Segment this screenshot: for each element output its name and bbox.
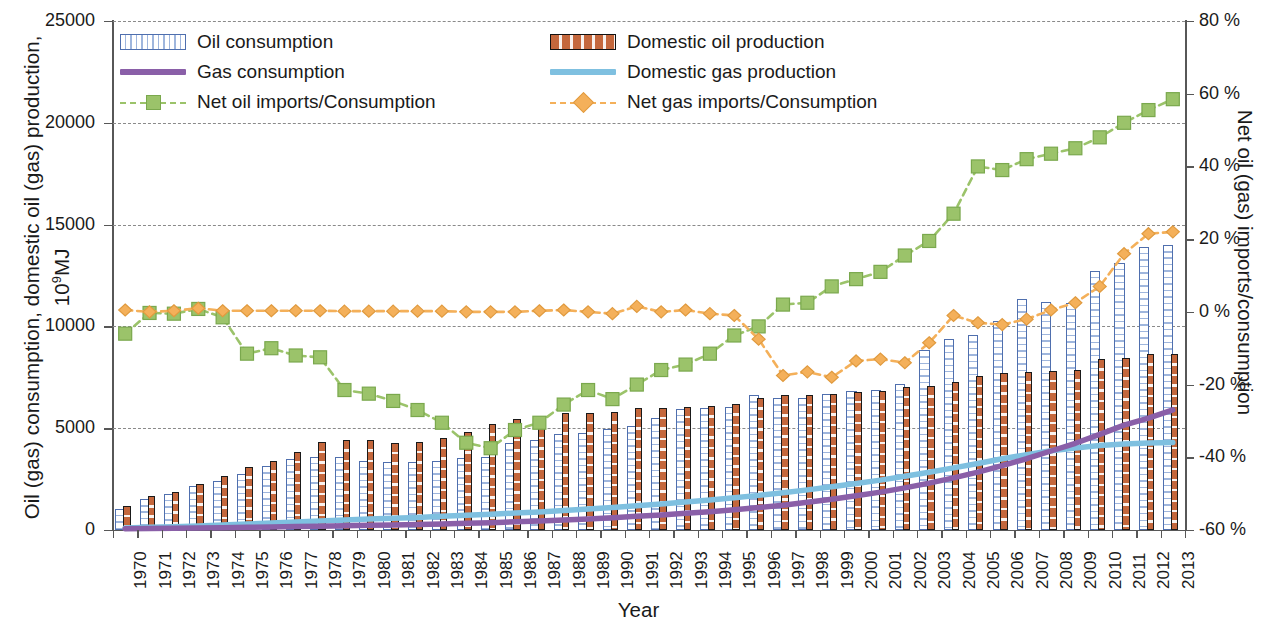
x-tick-label: 1971 [156, 551, 176, 589]
data-point [314, 351, 327, 364]
y-tick-label-right: -20 % [1199, 374, 1246, 395]
data-point [996, 164, 1009, 177]
data-point [1020, 313, 1033, 325]
x-tick-label: 1989 [594, 551, 614, 589]
line-lightblue-icon [550, 64, 616, 80]
bar-orange-dot-icon [550, 34, 616, 50]
x-tick-label: 2005 [984, 551, 1004, 589]
x-tick [527, 530, 528, 538]
x-tick [186, 530, 187, 538]
x-tick-label: 1996 [765, 551, 785, 589]
x-tick [990, 530, 991, 538]
data-point [1020, 153, 1033, 166]
data-point [1142, 104, 1155, 117]
x-tick-label: 1986 [521, 551, 541, 589]
y-tick-label-left: 10000 [45, 315, 95, 336]
legend-label: Net oil imports/Consumption [197, 91, 436, 113]
data-point [241, 347, 254, 360]
data-point [289, 305, 302, 317]
x-tick [332, 530, 333, 538]
x-tick-label: 1992 [667, 551, 687, 589]
y-tick-label-left: 5000 [55, 417, 95, 438]
legend-item-net-gas-imports[interactable]: Net gas imports/Consumption [550, 90, 980, 114]
legend-item-oil-consumption[interactable]: Oil consumption [120, 30, 550, 54]
x-tick-label: 1975 [253, 551, 273, 589]
data-point [435, 305, 448, 317]
data-point [411, 305, 424, 317]
y-tick-label-right: 20 % [1199, 228, 1240, 249]
x-tick [405, 530, 406, 538]
x-tick [454, 530, 455, 538]
chart-figure: Oil (gas) consumption, domestic oil (gas… [0, 0, 1277, 634]
data-point [606, 308, 619, 320]
data-point [898, 249, 911, 262]
data-point [533, 305, 546, 317]
x-tick [284, 530, 285, 538]
x-tick-label: 1981 [399, 551, 419, 589]
x-tick-label: 2008 [1057, 551, 1077, 589]
data-point [655, 306, 668, 318]
x-tick [308, 530, 309, 538]
x-tick [1185, 530, 1186, 538]
x-tick [1161, 530, 1162, 538]
x-tick [844, 530, 845, 538]
x-tick [210, 530, 211, 538]
data-point [460, 306, 473, 318]
data-point [435, 416, 448, 429]
x-tick [966, 530, 967, 538]
x-tick-label: 1984 [472, 551, 492, 589]
x-tick-label: 1976 [277, 551, 297, 589]
x-tick [600, 530, 601, 538]
y-tick-label-right: -60 % [1199, 519, 1246, 540]
data-point [679, 304, 692, 316]
legend-label: Oil consumption [197, 31, 333, 53]
legend-item-domestic-oil-production[interactable]: Domestic oil production [550, 30, 980, 54]
y-tick-right [1186, 530, 1194, 531]
x-tick [357, 530, 358, 538]
x-tick [917, 530, 918, 538]
y-tick-right [1186, 239, 1194, 240]
x-tick-label: 1970 [131, 551, 151, 589]
x-tick [868, 530, 869, 538]
x-tick [552, 530, 553, 538]
data-point [630, 378, 643, 391]
data-point [1069, 142, 1082, 155]
data-point [1166, 226, 1179, 238]
y-tick-label-left: 15000 [45, 214, 95, 235]
y-tick-label-right: 60 % [1199, 83, 1240, 104]
data-point [777, 298, 790, 311]
x-tick [162, 530, 163, 538]
data-point [314, 305, 327, 317]
data-point [557, 304, 570, 316]
series-net-oil-imports [119, 93, 1180, 455]
y-tick-label-right: 0 % [1199, 301, 1230, 322]
x-tick [795, 530, 796, 538]
data-point [1093, 131, 1106, 144]
x-tick-label: 2013 [1179, 551, 1199, 589]
x-tick-label: 2011 [1130, 552, 1150, 589]
x-tick [625, 530, 626, 538]
x-tick-label: 1990 [618, 551, 638, 589]
data-point [606, 393, 619, 406]
data-point [265, 305, 278, 317]
data-point [850, 273, 863, 286]
series-net-gas-imports [119, 226, 1180, 383]
x-tick-label: 1994 [716, 551, 736, 589]
legend-item-net-oil-imports[interactable]: Net oil imports/Consumption [120, 90, 550, 114]
data-point [703, 308, 716, 320]
x-axis-title: Year [0, 598, 1277, 622]
legend-item-gas-consumption[interactable]: Gas consumption [120, 60, 550, 84]
x-tick [430, 530, 431, 538]
legend-item-domestic-gas-production[interactable]: Domestic gas production [550, 60, 980, 84]
data-point [874, 353, 887, 365]
data-point [923, 234, 936, 247]
x-tick [235, 530, 236, 538]
y-tick-right [1186, 21, 1194, 22]
data-point [557, 398, 570, 411]
y-tick-label-left: 25000 [45, 10, 95, 31]
data-point [509, 306, 522, 318]
data-point [801, 296, 814, 309]
y-tick-label-right: 40 % [1199, 155, 1240, 176]
x-tick [1136, 530, 1137, 538]
x-tick-label: 1999 [838, 551, 858, 589]
